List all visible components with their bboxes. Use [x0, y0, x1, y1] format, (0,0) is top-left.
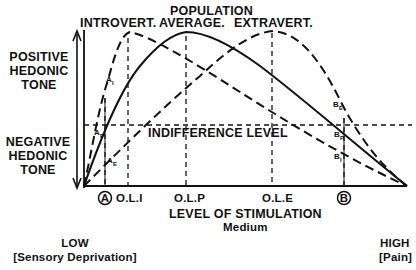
ol-e-label: O.L.E [262, 193, 293, 205]
a-p-label: AP [94, 129, 104, 139]
high-label: HIGH [380, 238, 410, 250]
low-sub-label: [Sensory Deprivation] [0, 252, 150, 264]
reference-verticals [105, 33, 344, 186]
positive-hedonic-label: HEDONIC [5, 65, 73, 78]
average-label: AVERAGE. [159, 17, 225, 30]
b-e-label: BE [333, 101, 343, 111]
a-marker-label: A [99, 193, 111, 205]
x-axis-title: LEVEL OF STIMULATION [169, 208, 322, 221]
positive-tone-label: TONE [5, 79, 73, 92]
point-ticks [105, 98, 344, 186]
negative-label: NEGATIVE [2, 136, 74, 149]
b-marker-label: B [338, 193, 350, 205]
y-axis [73, 30, 84, 188]
high-sub-label: [Pain] [379, 252, 412, 264]
extravert-label: EXTRAVERT. [234, 17, 313, 30]
indifference-level-label: INDIFFERENCE LEVEL [148, 127, 288, 140]
low-label: LOW [0, 238, 150, 250]
introvert-label: INTROVERT. [80, 17, 156, 30]
positive-label: POSITIVE [5, 51, 73, 64]
b-i-label: BI [334, 153, 342, 163]
b-p-label: BP [334, 131, 344, 141]
negative-hedonic-label: HEDONIC [2, 150, 74, 163]
medium-label: Medium [223, 222, 268, 234]
ol-p-label: O.L.P [174, 193, 205, 205]
ol-i-label: O.L.I [116, 193, 143, 205]
negative-tone-label: TONE [2, 164, 74, 177]
a-i-label: AI [106, 76, 114, 86]
a-e-label: AE [107, 157, 117, 167]
